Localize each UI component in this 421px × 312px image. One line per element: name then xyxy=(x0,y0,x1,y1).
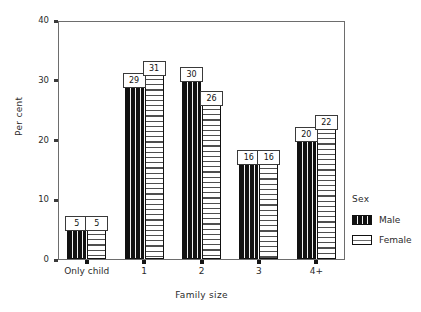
bar-slot: 20 xyxy=(297,20,316,259)
bar-slot: 31 xyxy=(145,20,164,259)
legend-item-female[interactable]: Female xyxy=(352,235,412,245)
legend-title: Sex xyxy=(352,194,412,204)
bar-female xyxy=(87,229,106,259)
bar-group: 3026 xyxy=(174,22,231,259)
legend-label: Male xyxy=(379,215,400,225)
legend-swatch-male xyxy=(352,215,372,225)
bar-value-label: 31 xyxy=(143,61,166,76)
x-tick-mark xyxy=(314,260,318,264)
bar-female xyxy=(202,104,221,259)
legend-swatch-female xyxy=(352,235,372,245)
x-axis-title: Family size xyxy=(58,290,345,300)
bar-group: 1616 xyxy=(231,22,288,259)
y-tick-label: 20 xyxy=(38,135,49,145)
bar-value-label: 30 xyxy=(180,67,203,82)
bar-group: 55 xyxy=(59,22,116,259)
legend: Sex MaleFemale xyxy=(352,194,412,255)
bar-male xyxy=(182,80,201,259)
bar-value-label: 26 xyxy=(200,91,223,106)
bar-slot: 5 xyxy=(87,20,106,259)
bar-value-label: 22 xyxy=(315,115,338,130)
y-tick-label: 0 xyxy=(44,254,49,264)
bar-slot: 16 xyxy=(239,20,258,259)
bar-slot: 22 xyxy=(317,20,336,259)
legend-label: Female xyxy=(379,235,412,245)
bar-group: 2022 xyxy=(289,22,346,259)
legend-item-male[interactable]: Male xyxy=(352,215,412,225)
y-tick-label: 10 xyxy=(38,194,49,204)
legend-entries: MaleFemale xyxy=(352,215,412,245)
bar-female xyxy=(145,74,164,259)
x-tick-mark xyxy=(85,260,89,264)
y-axis-title: Per cent xyxy=(14,66,24,136)
bar-chart: Per cent 010203040 552931302616162022 On… xyxy=(0,0,421,312)
bar-male xyxy=(297,140,316,260)
x-tick-mark xyxy=(257,260,261,264)
y-tick-label: 40 xyxy=(38,15,49,25)
bar-slot: 16 xyxy=(259,20,278,259)
plot-area: 552931302616162022 xyxy=(58,21,345,260)
bar-group: 2931 xyxy=(116,22,173,259)
bar-male xyxy=(67,229,86,259)
bar-value-label: 16 xyxy=(257,150,280,165)
bar-value-label: 5 xyxy=(85,216,108,231)
bar-slot: 5 xyxy=(67,20,86,259)
bar-male xyxy=(125,86,144,259)
y-tick-label: 30 xyxy=(38,75,49,85)
x-tick-mark xyxy=(142,260,146,264)
bar-slot: 26 xyxy=(202,20,221,259)
x-tick-label: 4+ xyxy=(276,266,356,276)
bar-male xyxy=(239,163,258,259)
x-tick-mark xyxy=(200,260,204,264)
bar-female xyxy=(259,163,278,259)
bar-female xyxy=(317,128,336,259)
bar-slot: 29 xyxy=(125,20,144,259)
plot-inner: 552931302616162022 xyxy=(59,22,344,259)
bar-slot: 30 xyxy=(182,20,201,259)
